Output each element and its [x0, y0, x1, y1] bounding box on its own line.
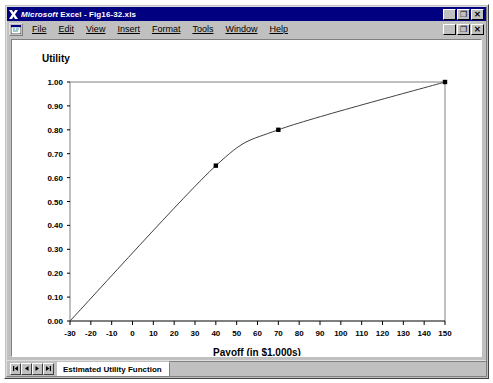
x-tick-label: 90	[316, 329, 325, 338]
menu-item-edit-label: Edit	[59, 24, 75, 34]
document-restore-icon: ❐	[458, 26, 469, 34]
last-sheet-icon	[45, 365, 52, 372]
window-title-rest: Excel - Fig16-32.xls	[58, 10, 136, 19]
y-tick-label: 0.60	[47, 174, 63, 183]
x-tick-label: 10	[149, 329, 158, 338]
first-sheet-button[interactable]	[10, 363, 21, 375]
menu-item-view[interactable]: View	[80, 23, 111, 36]
chart-plot-frame	[70, 82, 445, 321]
series-line[interactable]	[70, 82, 445, 321]
menu-item-window-label: Window	[225, 24, 257, 34]
next-sheet-icon	[34, 365, 41, 372]
previous-sheet-icon	[23, 365, 30, 372]
window-controls: _ ❐ ✕	[443, 9, 484, 20]
y-tick-label: 0.70	[47, 150, 63, 159]
x-tick-label: 150	[438, 329, 452, 338]
y-tick-label: 0.50	[47, 198, 63, 207]
menu-item-format-label: Format	[152, 24, 181, 34]
menu-item-help[interactable]: Help	[263, 23, 294, 36]
x-tick-label: 120	[376, 329, 390, 338]
y-tick-label: 0.20	[47, 269, 63, 278]
y-tick-label: 1.00	[47, 78, 63, 87]
workbook-icon[interactable]	[9, 23, 23, 36]
document-window-controls: _ ❐ ✕	[443, 24, 484, 35]
menu-item-file[interactable]: File	[26, 23, 53, 36]
y-tick-label: 0.00	[47, 317, 63, 326]
y-axis-title: Utility	[42, 53, 70, 64]
menu-item-insert-label: Insert	[117, 24, 140, 34]
x-axis-ticks: -30-20-100102030405060708090100110120130…	[64, 321, 452, 338]
y-tick-label: 0.40	[47, 221, 63, 230]
x-tick-label: 130	[397, 329, 411, 338]
chart-sheet-canvas[interactable]: Utility 0.000.100.200.300.400.500.600.70…	[11, 39, 482, 357]
workbook-client-area: Utility 0.000.100.200.300.400.500.600.70…	[7, 38, 486, 358]
x-tick-label: 0	[130, 329, 135, 338]
next-sheet-button[interactable]	[32, 363, 43, 375]
menu-item-insert[interactable]: Insert	[111, 23, 146, 36]
document-minimize-button[interactable]: _	[443, 24, 456, 35]
x-tick-label: 100	[334, 329, 348, 338]
sheet-tab-estimated-utility-function[interactable]: Estimated Utility Function	[57, 362, 170, 376]
x-tick-label: -20	[85, 329, 97, 338]
x-tick-label: 30	[191, 329, 200, 338]
chart-series-group	[70, 80, 447, 321]
document-close-icon: ✕	[472, 25, 483, 34]
menu-item-format[interactable]: Format	[146, 23, 187, 36]
menu-item-tools[interactable]: Tools	[186, 23, 219, 36]
x-tick-label: 140	[417, 329, 431, 338]
series-data-point[interactable]	[214, 163, 218, 167]
menu-item-view-label: View	[86, 24, 105, 34]
minimize-icon: _	[444, 14, 455, 18]
sheet-nav-buttons	[10, 363, 54, 375]
document-close-button[interactable]: ✕	[471, 24, 484, 35]
y-tick-label: 0.30	[47, 245, 63, 254]
x-tick-label: 50	[232, 329, 241, 338]
series-data-point[interactable]	[276, 128, 280, 132]
y-axis-ticks: 0.000.100.200.300.400.500.600.700.800.90…	[47, 78, 70, 326]
restore-button[interactable]: ❐	[457, 9, 470, 20]
menu-item-file-label: File	[32, 24, 47, 34]
y-tick-label: 0.10	[47, 293, 63, 302]
x-tick-label: -30	[64, 329, 76, 338]
last-sheet-button[interactable]	[43, 363, 54, 375]
y-tick-label: 0.80	[47, 126, 63, 135]
sheet-tab-empty-area	[169, 361, 486, 376]
document-minimize-icon: _	[444, 29, 455, 33]
x-axis-title: Payoff (in $1,000s)	[213, 347, 301, 357]
close-button[interactable]: ✕	[471, 9, 484, 20]
window-title: Microsoft Excel - Fig16-32.xls	[21, 9, 443, 20]
restore-icon: ❐	[458, 11, 469, 19]
menu-item-edit[interactable]: Edit	[53, 23, 81, 36]
x-tick-label: 60	[253, 329, 262, 338]
utility-function-chart[interactable]: Utility 0.000.100.200.300.400.500.600.70…	[12, 40, 482, 357]
x-tick-label: 20	[170, 329, 179, 338]
minimize-button[interactable]: _	[443, 9, 456, 20]
previous-sheet-button[interactable]	[21, 363, 32, 375]
series-data-point[interactable]	[443, 80, 447, 84]
excel-x-icon	[8, 9, 19, 20]
title-bar: Microsoft Excel - Fig16-32.xls _ ❐ ✕	[7, 7, 486, 21]
close-icon: ✕	[472, 10, 483, 19]
x-tick-label: 70	[274, 329, 283, 338]
first-sheet-icon	[12, 365, 19, 372]
document-restore-button[interactable]: ❐	[457, 24, 470, 35]
menu-item-tools-label: Tools	[192, 24, 213, 34]
menu-item-window[interactable]: Window	[219, 23, 263, 36]
x-tick-label: -10	[106, 329, 118, 338]
x-tick-label: 40	[211, 329, 220, 338]
x-tick-label: 80	[295, 329, 304, 338]
menu-bar: File Edit View Insert Format Tools Windo…	[7, 22, 486, 37]
y-tick-label: 0.90	[47, 102, 63, 111]
sheet-tab-bar: Estimated Utility Function	[7, 360, 486, 376]
window-title-app: Microsoft	[21, 10, 58, 19]
x-tick-label: 110	[355, 329, 368, 338]
menu-item-help-label: Help	[269, 24, 288, 34]
excel-application-window: Microsoft Excel - Fig16-32.xls _ ❐ ✕ Fil…	[4, 4, 489, 379]
